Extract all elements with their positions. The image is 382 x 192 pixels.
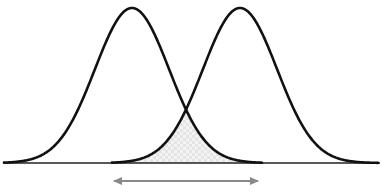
left-distribution-curve: [4, 8, 262, 163]
normal-curves-figure: [0, 0, 382, 192]
overlap-shaded-area: [112, 110, 262, 163]
diagram-canvas: [0, 0, 382, 192]
